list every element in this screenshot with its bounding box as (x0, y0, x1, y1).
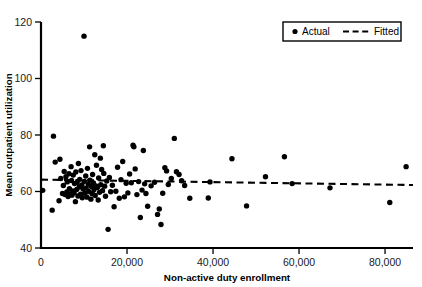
data-point (110, 183, 115, 188)
data-point (206, 195, 211, 200)
data-point (169, 176, 174, 181)
data-point (51, 133, 56, 138)
legend-label-fitted: Fitted (374, 26, 399, 37)
x-tick-label: 0 (38, 256, 44, 268)
data-point (143, 191, 148, 196)
data-point (96, 197, 101, 202)
data-point (160, 190, 165, 195)
scatter-plot-figure: 406080100120 020,00040,00060,00080,000 N… (0, 0, 422, 287)
x-tick-label: 20,000 (111, 256, 143, 268)
data-point (52, 159, 57, 164)
data-point (134, 192, 139, 197)
data-point (81, 33, 86, 38)
data-point (88, 196, 93, 201)
data-point (120, 159, 125, 164)
legend-dot-marker (292, 29, 297, 34)
data-point (73, 169, 78, 174)
x-tick-label: 60,000 (283, 256, 315, 268)
data-point (80, 195, 85, 200)
data-point (176, 172, 181, 177)
data-point (172, 136, 177, 141)
data-point (56, 198, 61, 203)
data-point (115, 165, 120, 170)
data-point (102, 183, 107, 188)
x-axis-title: Non-active duty enrollment (164, 272, 291, 283)
data-point (101, 171, 106, 176)
data-point (92, 152, 97, 157)
y-tick-label: 60 (20, 185, 32, 197)
y-tick-label: 80 (20, 129, 32, 141)
data-point (155, 212, 160, 217)
data-point (40, 188, 45, 193)
data-point (78, 168, 83, 173)
y-axis-title: Mean outpatient utilization (3, 73, 14, 197)
data-point (87, 144, 92, 149)
data-point (83, 173, 88, 178)
x-tick-label: 40,000 (197, 256, 229, 268)
data-point (105, 227, 110, 232)
data-point (166, 182, 171, 187)
y-tick-label: 120 (14, 16, 32, 28)
plot-area-background (41, 22, 413, 248)
data-point (229, 156, 234, 161)
data-point (68, 164, 73, 169)
data-point (107, 175, 112, 180)
data-point (98, 155, 103, 160)
data-point (85, 166, 90, 171)
y-tick-label: 100 (14, 72, 32, 84)
data-point (49, 207, 54, 212)
data-point (164, 168, 169, 173)
data-point (103, 194, 108, 199)
data-point (157, 206, 162, 211)
data-point (403, 164, 408, 169)
data-point (182, 183, 187, 188)
data-point (132, 166, 137, 171)
data-point (158, 222, 163, 227)
data-point (131, 144, 136, 149)
data-point (327, 185, 332, 190)
legend-label-actual: Actual (302, 26, 330, 37)
data-point (127, 171, 132, 176)
data-point (282, 154, 287, 159)
data-point (141, 148, 146, 153)
data-point (117, 196, 122, 201)
data-point (94, 163, 99, 168)
data-point (90, 172, 95, 177)
data-point (263, 174, 268, 179)
chart-legend: Actual Fitted (283, 22, 401, 41)
data-point (76, 161, 81, 166)
data-point (244, 203, 249, 208)
x-tick-label: 80,000 (369, 256, 401, 268)
y-axis-ticks: 406080100120 (14, 16, 41, 254)
data-point (187, 196, 192, 201)
data-point (73, 199, 78, 204)
data-point (387, 200, 392, 205)
data-point (108, 189, 113, 194)
data-point (111, 204, 116, 209)
data-point (101, 143, 106, 148)
data-point (138, 215, 143, 220)
chart-canvas: 406080100120 020,00040,00060,00080,000 N… (0, 0, 422, 287)
data-point (62, 169, 67, 174)
y-tick-label: 40 (20, 242, 32, 254)
data-point (125, 190, 130, 195)
data-point (145, 203, 150, 208)
data-point (57, 157, 62, 162)
data-point (113, 189, 118, 194)
x-axis-ticks: 020,00040,00060,00080,000 (38, 248, 401, 268)
